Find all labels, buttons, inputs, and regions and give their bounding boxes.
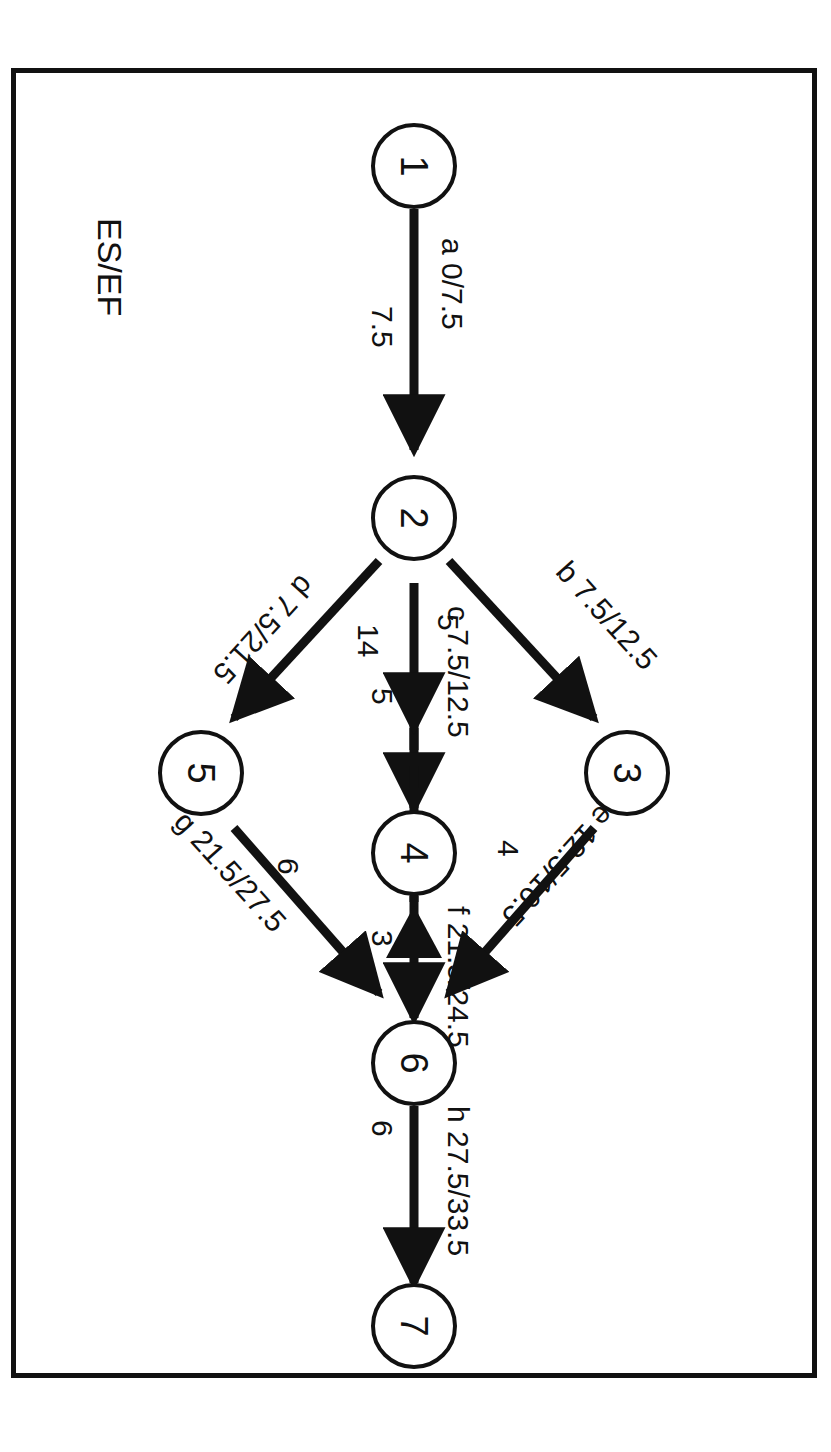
edge-h-duration: 6 xyxy=(365,1120,399,1137)
edge-lines-layer xyxy=(11,68,817,1378)
edge-d-duration: 14 xyxy=(351,624,385,657)
figure-page: 1 2 3 4 5 6 7 a 0/7.5 7.5 b 7.5/12.5 5 c… xyxy=(0,0,831,1452)
node-7[interactable]: 7 xyxy=(371,1283,457,1369)
edge-h-label: h 27.5/33.5 xyxy=(441,1106,475,1256)
node-1[interactable]: 1 xyxy=(371,123,457,209)
node-2[interactable]: 2 xyxy=(371,475,457,561)
diagram-viewport: 1 2 3 4 5 6 7 a 0/7.5 7.5 b 7.5/12.5 5 c… xyxy=(11,68,817,1378)
edge-c-duration: 5 xyxy=(365,688,399,705)
node-4[interactable]: 4 xyxy=(371,810,457,896)
network-diagram-canvas: 1 2 3 4 5 6 7 a 0/7.5 7.5 b 7.5/12.5 5 c… xyxy=(11,68,817,1378)
edge-a-label: a 0/7.5 xyxy=(435,238,469,330)
edge-g-duration: 6 xyxy=(271,858,305,875)
edge-f-duration: 3 xyxy=(365,930,399,947)
edge-f-label: f 21.5/24.5 xyxy=(441,906,475,1048)
edge-a-duration: 7.5 xyxy=(365,306,399,348)
node-5[interactable]: 5 xyxy=(158,730,244,816)
edge-c-label: c 7.5/12.5 xyxy=(441,606,475,738)
edge-e-duration: 4 xyxy=(491,840,525,857)
